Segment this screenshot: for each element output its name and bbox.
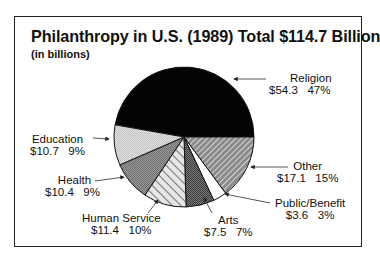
label-health-stats: $10.4 9% [45, 186, 100, 198]
label-education-stats: $10.7 9% [30, 145, 85, 157]
label-health: Health $10.4 9% [45, 174, 100, 198]
label-human-service: Human Service $11.4 10% [82, 212, 161, 236]
arrow-education [93, 138, 109, 139]
label-education-name: Education [30, 133, 85, 145]
label-other: Other $17.1 15% [277, 160, 338, 184]
label-religion-name: Religion [268, 72, 332, 84]
label-religion-stats: $54.3 47% [268, 84, 332, 96]
label-arts-stats: $7.5 7% [204, 226, 253, 238]
label-religion: Religion $54.3 47% [268, 72, 332, 96]
label-arts-name: Arts [204, 214, 253, 226]
label-human-service-stats: $11.4 10% [82, 224, 161, 236]
label-other-stats: $17.1 15% [277, 172, 338, 184]
label-education: Education $10.7 9% [30, 133, 85, 157]
pie-slice-religion [115, 67, 254, 137]
label-human-service-name: Human Service [82, 212, 161, 224]
label-public-benefit: Public/Benefit $3.6 3% [275, 197, 345, 221]
arrow-public-benefit [225, 194, 270, 203]
label-public-benefit-stats: $3.6 3% [275, 209, 345, 221]
label-health-name: Health [45, 174, 100, 186]
label-other-name: Other [277, 160, 338, 172]
label-arts: Arts $7.5 7% [204, 214, 253, 238]
label-public-benefit-name: Public/Benefit [275, 197, 345, 209]
